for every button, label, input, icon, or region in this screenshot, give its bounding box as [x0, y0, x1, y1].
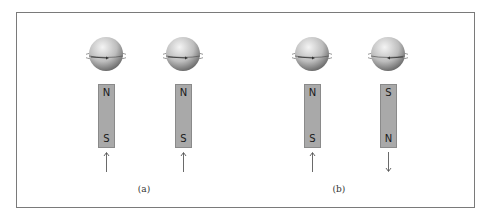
- bar-magnet: N S: [175, 84, 192, 148]
- bar-magnet: N S: [98, 84, 115, 148]
- bar-magnet: S N: [380, 84, 397, 148]
- panel-label-b: (b): [324, 184, 354, 194]
- spinning-sphere-icon: [292, 34, 332, 74]
- panel-label-a: (a): [129, 184, 159, 194]
- magnet-top-pole: N: [176, 87, 191, 99]
- arrow-down-icon: [380, 151, 397, 173]
- spinning-sphere-icon: [86, 34, 126, 74]
- arrow-up-icon: [175, 151, 192, 173]
- magnet-top-pole: N: [99, 87, 114, 99]
- spinning-sphere-icon: [163, 34, 203, 74]
- spinning-sphere-icon: [368, 34, 408, 74]
- magnet-bottom-pole: S: [176, 133, 191, 145]
- magnet-bottom-pole: N: [381, 133, 396, 145]
- bar-magnet: N S: [304, 84, 321, 148]
- spin-magnet-unit-a2: N S: [153, 0, 213, 222]
- magnet-bottom-pole: S: [99, 133, 114, 145]
- arrow-up-icon: [98, 151, 115, 173]
- magnet-bottom-pole: S: [305, 133, 320, 145]
- arrow-up-icon: [304, 151, 321, 173]
- spin-magnet-unit-a1: N S: [76, 0, 136, 222]
- magnet-top-pole: S: [381, 87, 396, 99]
- spin-magnet-unit-b2: S N: [358, 0, 418, 222]
- magnet-top-pole: N: [305, 87, 320, 99]
